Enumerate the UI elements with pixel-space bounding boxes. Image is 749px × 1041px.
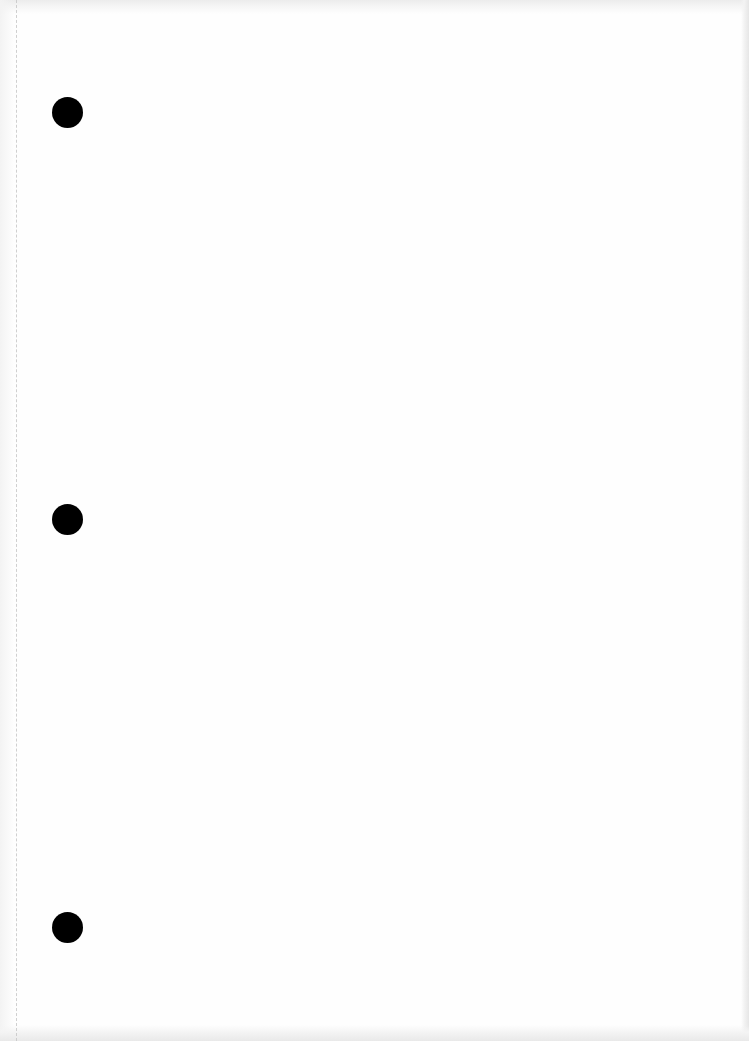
punch-hole-bottom [52,912,83,943]
scan-edge-left-shadow [0,0,14,1041]
scanned-page [0,0,749,1041]
scan-edge-right-shadow [741,0,749,1041]
perforation-line [16,0,17,1041]
scan-edge-bottom-shadow [0,1025,749,1041]
punch-hole-top [52,97,83,128]
scan-edge-top-shadow [0,0,749,14]
punch-hole-middle [52,504,83,535]
